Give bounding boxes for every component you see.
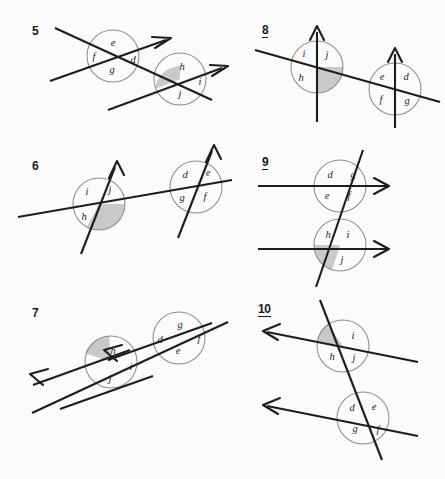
problem-number-9: 9: [262, 156, 268, 170]
angle-label: h: [298, 72, 303, 83]
angle-label: f: [348, 190, 353, 201]
line-6-transversal: [18, 180, 232, 217]
angle-label: e: [372, 401, 377, 412]
angle-label: h: [110, 345, 115, 356]
angle-label: g: [177, 319, 182, 330]
angle-label: e: [176, 345, 181, 356]
arrowhead-6-a: [109, 161, 124, 178]
line-10-transversal: [320, 300, 382, 460]
angle-label: g: [179, 192, 184, 203]
angle-label: i: [130, 361, 133, 372]
problem-number-7: 7: [32, 306, 38, 320]
angle-label: f: [380, 94, 385, 105]
diagram-8: i j h e d f g: [222, 0, 445, 140]
angle-label: g: [109, 64, 114, 75]
angle-label: g: [404, 95, 409, 106]
arrowhead-6-b: [206, 145, 221, 162]
angle-label: j: [351, 352, 356, 363]
angle-label: f: [204, 191, 209, 202]
angle-label: j: [324, 49, 329, 60]
problem-number-6: 6: [32, 159, 38, 173]
angle-label: h: [81, 211, 86, 222]
line-5-transversal-upper: [50, 40, 166, 81]
angle-label: e: [111, 37, 116, 48]
angle-label: d: [182, 169, 188, 180]
angle-label: d: [349, 402, 355, 413]
line-8-transversal: [255, 50, 440, 102]
problem-number-8: 8: [262, 24, 268, 38]
diagram-9: d g e f h i j: [222, 142, 445, 292]
angle-label: d: [157, 334, 163, 345]
angle-label: j: [177, 88, 182, 99]
angle-label: d: [130, 54, 136, 65]
arrowhead-7-a: [30, 369, 48, 385]
angle-label: h: [325, 229, 330, 240]
angle-label: j: [339, 254, 344, 265]
diagram-5: e f d g h i j: [0, 0, 230, 140]
angle-label: i: [347, 229, 350, 240]
angle-label: e: [325, 190, 330, 201]
problem-number-10: 10: [258, 303, 271, 317]
problem-10: 10 i h j d e g f: [222, 288, 445, 463]
problem-9: 9 d g e f h i j: [222, 142, 445, 292]
angle-label: d: [403, 71, 409, 82]
problem-number-5: 5: [32, 24, 38, 38]
angle-label: i: [199, 76, 202, 87]
problem-6: 6 i j h d e g f: [0, 142, 235, 287]
problem-7: 7 h i j g d f e: [0, 288, 235, 428]
angle-label: d: [327, 169, 333, 180]
angle-label: e: [206, 167, 211, 178]
angle-label: i: [303, 48, 306, 59]
line-9-transversal: [316, 150, 363, 287]
diagram-10: i h j d e g f: [222, 288, 445, 463]
angle-label: g: [352, 423, 357, 434]
angle-label: i: [86, 186, 89, 197]
angle-label: g: [350, 169, 355, 180]
angle-label: f: [377, 424, 382, 435]
angle-label: f: [93, 51, 98, 62]
angle-label: i: [352, 330, 355, 341]
angle-circle-10-bottom: [337, 392, 389, 444]
line-10-arrow-bottom: [267, 406, 418, 436]
worksheet-page: 5 e f d g h i j 8: [0, 0, 445, 479]
problem-5: 5 e f d g h i j: [0, 0, 230, 140]
angle-label: h: [329, 351, 334, 362]
angle-label: e: [380, 71, 385, 82]
angle-label: h: [179, 61, 184, 72]
problem-8: 8 i j h e d f g: [222, 0, 445, 140]
